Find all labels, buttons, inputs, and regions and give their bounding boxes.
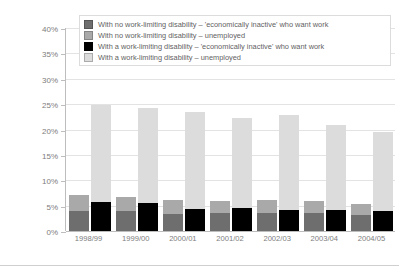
bar-segment[interactable] [304, 213, 324, 231]
bar-segment[interactable] [185, 209, 205, 231]
y-axis-tick-label: 0% [46, 228, 58, 237]
x-axis-labels: 1998/991999/002000/012001/022002/032003/… [65, 234, 395, 243]
bar-segment[interactable] [163, 214, 183, 231]
gridline: 0% [66, 231, 395, 232]
y-axis-tick-label: 15% [42, 151, 58, 160]
stacked-bar[interactable] [210, 201, 230, 231]
bar-segment[interactable] [232, 118, 252, 208]
bar-segment[interactable] [326, 125, 346, 210]
stacked-bar[interactable] [326, 125, 346, 231]
bar-segment[interactable] [257, 200, 277, 213]
stacked-bar[interactable] [116, 197, 136, 232]
x-axis-tick-label: 2000/01 [159, 234, 206, 243]
chart-figure: Proportion of people aged 25 to retireme… [0, 0, 399, 266]
bar-segment[interactable] [279, 115, 299, 209]
y-axis-tick-label: 35% [42, 50, 58, 59]
x-axis-tick-label: 2002/03 [254, 234, 301, 243]
bar-segment[interactable] [185, 112, 205, 209]
x-axis-tick-label: 1998/99 [65, 234, 112, 243]
stacked-bar[interactable] [91, 105, 111, 231]
x-axis-tick-label: 2003/04 [301, 234, 348, 243]
legend-item-label: With a work-limiting disability – unempl… [98, 53, 241, 63]
y-axis-tick-label: 25% [42, 101, 58, 110]
legend-item: With a work-limiting disability – 'econo… [80, 41, 390, 52]
bar-segment[interactable] [373, 132, 393, 211]
legend-swatch-icon [84, 20, 93, 29]
bar-segment[interactable] [351, 215, 371, 231]
bar-segment[interactable] [232, 208, 252, 231]
stacked-bar[interactable] [232, 118, 252, 231]
legend-item-label: With a work-limiting disability – 'econo… [98, 42, 324, 52]
bar-segment[interactable] [210, 201, 230, 214]
y-axis-tick-label: 30% [42, 75, 58, 84]
y-axis-tick-label: 5% [46, 202, 58, 211]
legend-item: With a work-limiting disability – unempl… [80, 52, 390, 63]
bar-segment[interactable] [257, 213, 277, 231]
legend-item-label: With no work-limiting disability – 'econ… [98, 20, 328, 30]
legend-swatch-icon [84, 42, 93, 51]
bar-segment[interactable] [116, 211, 136, 231]
stacked-bar[interactable] [304, 201, 324, 231]
stacked-bar[interactable] [279, 115, 299, 231]
bar-segment[interactable] [91, 202, 111, 231]
stacked-bar[interactable] [185, 112, 205, 231]
legend-swatch-icon [84, 31, 93, 40]
y-axis-tick [61, 232, 66, 233]
legend-item-label: With no work-limiting disability – unemp… [98, 31, 245, 41]
stacked-bar[interactable] [69, 195, 89, 231]
chart-legend: With no work-limiting disability – 'econ… [79, 15, 391, 66]
bar-segment[interactable] [326, 210, 346, 231]
bar-segment[interactable] [163, 200, 183, 214]
stacked-bar[interactable] [163, 200, 183, 231]
y-axis-tick-label: 10% [42, 177, 58, 186]
legend-item: With no work-limiting disability – 'econ… [80, 19, 390, 30]
bar-segment[interactable] [138, 108, 158, 202]
bar-segment[interactable] [69, 195, 89, 210]
bar-segment[interactable] [279, 210, 299, 231]
bar-segment[interactable] [116, 197, 136, 211]
x-axis-tick-label: 2004/05 [348, 234, 395, 243]
y-axis-tick-label: 40% [42, 25, 58, 34]
stacked-bar[interactable] [138, 108, 158, 231]
bar-segment[interactable] [304, 201, 324, 213]
bar-segment[interactable] [373, 211, 393, 231]
bar-segment[interactable] [138, 203, 158, 231]
stacked-bar[interactable] [257, 200, 277, 231]
legend-swatch-icon [84, 53, 93, 62]
stacked-bar[interactable] [373, 132, 393, 231]
bar-segment[interactable] [91, 105, 111, 202]
x-axis-tick-label: 1999/00 [112, 234, 159, 243]
stacked-bar[interactable] [351, 204, 371, 231]
legend-item: With no work-limiting disability – unemp… [80, 30, 390, 41]
x-axis-tick-label: 2001/02 [206, 234, 253, 243]
bar-segment[interactable] [351, 204, 371, 216]
bar-segment[interactable] [69, 211, 89, 231]
y-axis-tick-label: 20% [42, 126, 58, 135]
bar-segment[interactable] [210, 213, 230, 231]
